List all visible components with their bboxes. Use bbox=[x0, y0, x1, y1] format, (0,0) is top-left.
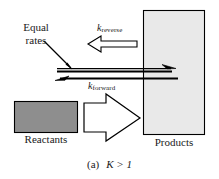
caption-k-value: K > 1 bbox=[106, 158, 132, 170]
equal-rates-label: Equal rates bbox=[13, 21, 59, 47]
k-forward-label: kforward bbox=[88, 81, 115, 93]
caption-part-label: (a) bbox=[87, 158, 99, 170]
forward-block-arrow bbox=[84, 94, 140, 141]
k-forward-subscript: forward bbox=[92, 84, 115, 92]
reactants-label: Reactants bbox=[14, 134, 78, 146]
equilibrium-diagram: Equal rates kreverse kforward Reactants … bbox=[0, 0, 219, 179]
k-reverse-subscript: reverse bbox=[101, 26, 122, 34]
figure-caption: (a)K > 1 bbox=[0, 159, 219, 171]
k-reverse-label: kreverse bbox=[97, 23, 122, 35]
reverse-block-arrow bbox=[88, 36, 137, 52]
products-label: Products bbox=[143, 137, 205, 149]
reactants-box bbox=[15, 102, 78, 133]
